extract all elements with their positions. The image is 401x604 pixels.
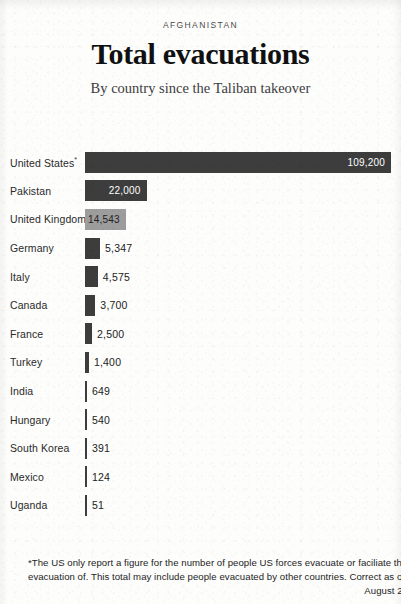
chart-row: India649 (0, 377, 401, 406)
category-label: India (0, 385, 85, 397)
category-label: United States* (0, 156, 85, 169)
bar-value: 109,200 (347, 157, 391, 168)
bar (85, 495, 87, 516)
category-label: Hungary (0, 414, 85, 426)
chart-row: Canada3,700 (0, 291, 401, 320)
category-label: Turkey (0, 356, 85, 368)
bar-track: 540 (85, 405, 401, 434)
footnote-body: *The US only report a figure for the num… (28, 556, 401, 584)
chart-row: France2,500 (0, 320, 401, 349)
bar-chart: United States*109,200Pakistan22,000Unite… (0, 148, 401, 520)
category-label: France (0, 328, 85, 340)
chart-row: Hungary540 (0, 405, 401, 434)
bar: 22,000 (85, 180, 147, 201)
bar-track: 2,500 (85, 320, 401, 349)
bar-value: 2,500 (97, 328, 124, 340)
category-label: Mexico (0, 471, 85, 483)
bar-track: 1,400 (85, 348, 401, 377)
bar-value: 649 (92, 385, 110, 397)
bar-value: 4,575 (103, 271, 130, 283)
bar-value: 391 (92, 442, 110, 454)
bar-value: 5,347 (105, 242, 132, 254)
footnote-marker: * (74, 156, 77, 163)
bar: 109,200 (85, 152, 391, 173)
category-label: Germany (0, 242, 85, 254)
category-label: Italy (0, 271, 85, 283)
bar-track: 3,700 (85, 291, 401, 320)
category-label: Canada (0, 299, 85, 311)
bar-value: 3,700 (100, 299, 127, 311)
chart-row: United Kingdom14,543 (0, 205, 401, 234)
bar-value: 540 (92, 414, 110, 426)
bar-value: 22,000 (109, 185, 147, 196)
bar (85, 323, 92, 344)
bar-track: 109,200 (85, 148, 401, 177)
chart-row: Pakistan22,000 (0, 177, 401, 206)
category-label: South Korea (0, 442, 85, 454)
chart-row: Uganda51 (0, 491, 401, 520)
bar-track: 4,575 (85, 262, 401, 291)
bar-track: 5,347 (85, 234, 401, 263)
bar-track: 51 (85, 491, 401, 520)
bar (85, 295, 95, 316)
bar-value: 51 (92, 499, 104, 511)
kicker-label: AFGHANISTAN (0, 20, 401, 30)
chart-subtitle: By country since the Taliban takeover (0, 81, 401, 96)
bar-value: 14,543 (88, 214, 126, 225)
bar (85, 381, 87, 402)
footnote: *The US only report a figure for the num… (28, 556, 401, 598)
bar-track: 14,543 (85, 205, 401, 234)
category-label: United Kingdom (0, 213, 85, 225)
bar (85, 352, 89, 373)
bar (85, 266, 98, 287)
bar-value: 124 (92, 471, 110, 483)
bar (85, 466, 87, 487)
bar (85, 438, 87, 459)
chart-row: Germany5,347 (0, 234, 401, 263)
bar (85, 238, 100, 259)
bar-track: 22,000 (85, 177, 401, 206)
bar: 14,543 (85, 209, 126, 230)
bar-track: 391 (85, 434, 401, 463)
chart-sheet: AFGHANISTAN Total evacuations By country… (0, 20, 401, 604)
category-label: Uganda (0, 499, 85, 511)
bar-track: 124 (85, 463, 401, 492)
chart-row: Turkey1,400 (0, 348, 401, 377)
category-label: Pakistan (0, 185, 85, 197)
page-title: Total evacuations (0, 39, 401, 69)
bar-value: 1,400 (94, 356, 121, 368)
chart-row: United States*109,200 (0, 148, 401, 177)
chart-row: Mexico124 (0, 463, 401, 492)
bar-track: 649 (85, 377, 401, 406)
bar (85, 409, 87, 430)
footnote-date: August 27 (28, 584, 401, 598)
chart-row: South Korea391 (0, 434, 401, 463)
chart-row: Italy4,575 (0, 262, 401, 291)
